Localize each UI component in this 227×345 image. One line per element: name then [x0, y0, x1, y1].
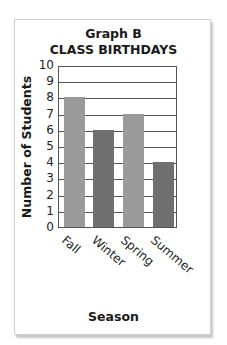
plot-area [58, 66, 177, 228]
gridline [59, 82, 176, 83]
bar-winter [93, 130, 114, 227]
y-tick-label: 10 [34, 59, 54, 71]
y-tick-label: 0 [34, 221, 54, 233]
y-axis-ticks: 012345678910 [30, 0, 54, 345]
bar-fall [64, 97, 85, 227]
y-tick-label: 5 [34, 140, 54, 152]
y-tick-label: 8 [34, 91, 54, 103]
y-tick-label: 6 [34, 124, 54, 136]
bar-summer [153, 162, 174, 227]
y-tick-label: 7 [34, 108, 54, 120]
y-tick-label: 3 [34, 172, 54, 184]
y-tick-label: 9 [34, 75, 54, 87]
x-axis-label: Season [0, 309, 227, 324]
y-tick-label: 2 [34, 189, 54, 201]
y-tick-label: 1 [34, 205, 54, 217]
y-tick-label: 4 [34, 156, 54, 168]
bar-spring [123, 114, 144, 227]
